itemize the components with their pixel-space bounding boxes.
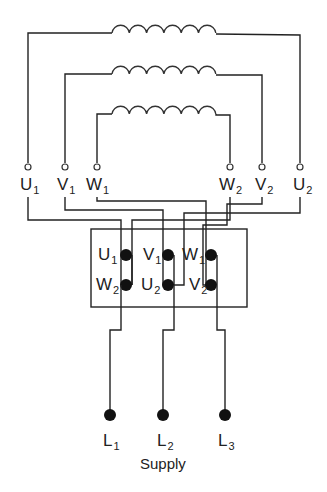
label-v2-top: V2 [255, 176, 273, 196]
winding-terminal-circles [25, 164, 303, 170]
label-v1-top: V1 [57, 176, 75, 196]
label-u1-top: U1 [20, 176, 39, 196]
box-label-u2: U2 [141, 276, 160, 296]
label-u2-top: U2 [293, 176, 312, 196]
supply-terminals [104, 409, 231, 421]
winding-v [65, 66, 262, 163]
terminal-leads [28, 197, 300, 285]
wiring-diagram [0, 0, 327, 492]
box-label-w2: W2 [96, 276, 119, 296]
box-label-v2: V2 [189, 276, 207, 296]
supply-wires [110, 285, 225, 413]
label-l1: L1 [103, 432, 120, 452]
label-w2-top: W2 [219, 176, 242, 196]
box-label-v1: V1 [143, 246, 161, 266]
winding-u [28, 25, 300, 163]
box-label-u1: U1 [98, 246, 117, 266]
supply-caption: Supply [140, 455, 186, 472]
label-l3: L3 [218, 432, 235, 452]
label-w1-top: W1 [86, 176, 109, 196]
winding-w [97, 106, 230, 163]
box-label-w1: W1 [182, 246, 205, 266]
label-l2: L2 [157, 432, 174, 452]
